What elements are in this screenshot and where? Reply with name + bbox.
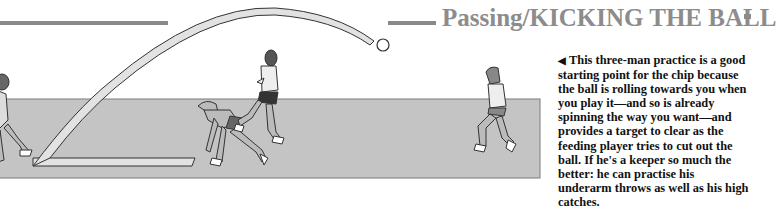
ground-path: [33, 158, 195, 166]
section-heading: Passing/KICKING THE BALL: [442, 4, 776, 32]
header-rule-mid: [388, 21, 436, 25]
caption-text: This three-man practice is a good starti…: [558, 53, 748, 209]
heading-end-mark: [744, 14, 751, 19]
ball-icon: [377, 39, 389, 51]
left-arrow-icon: ◀: [558, 55, 566, 66]
caption: ◀This three-man practice is a good start…: [558, 53, 751, 209]
